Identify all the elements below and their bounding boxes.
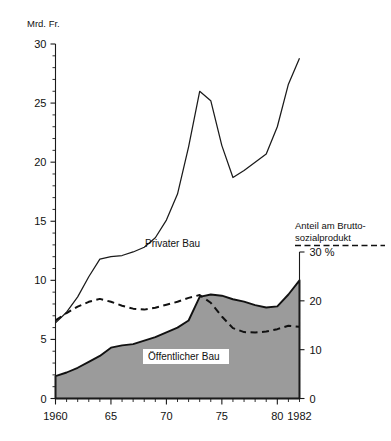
right-axis-tick-label: 10 bbox=[310, 344, 322, 356]
left-axis-tick-label: 20 bbox=[34, 156, 46, 168]
right-axis-tick-label: 30 % bbox=[310, 246, 335, 258]
left-axis-tick-label: 10 bbox=[34, 274, 46, 286]
right-axis-tick-label: 0 bbox=[310, 393, 316, 405]
annotation-privater-bau: Privater Bau bbox=[145, 238, 200, 249]
construction-investment-chart: 051015202530 0102030 % 1960657075801982 … bbox=[0, 0, 391, 441]
chart-container: 051015202530 0102030 % 1960657075801982 … bbox=[0, 0, 391, 441]
left-axis-tick-label: 5 bbox=[40, 333, 46, 345]
x-axis-tick-label: 70 bbox=[160, 410, 172, 422]
x-axis-tick-label: 80 bbox=[271, 410, 283, 422]
left-axis-label: Mrd. Fr. bbox=[27, 18, 60, 29]
right-axis-tick-label: 20 bbox=[310, 295, 322, 307]
x-axis-tick-label: 75 bbox=[216, 410, 228, 422]
x-axis-tick-label: 65 bbox=[105, 410, 117, 422]
left-axis-tick-label: 25 bbox=[34, 97, 46, 109]
left-axis-tick-label: 30 bbox=[34, 38, 46, 50]
annotation-oeffentlicher-bau: Öffentlicher Bau bbox=[148, 351, 220, 362]
x-axis-tick-label: 1960 bbox=[43, 410, 67, 422]
x-axis-tick-label: 1982 bbox=[287, 410, 311, 422]
left-axis-tick-label: 15 bbox=[34, 215, 46, 227]
right-axis-label-line2: sozialprodukt bbox=[295, 232, 351, 243]
right-axis-label-line1: Anteil am Brutto- bbox=[295, 220, 366, 231]
left-axis-tick-label: 0 bbox=[40, 393, 46, 405]
